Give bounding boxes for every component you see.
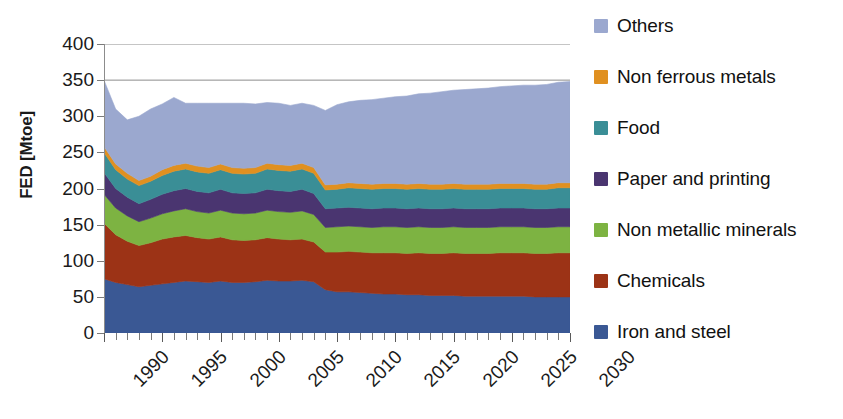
y-axis-tick-mark [97,80,104,81]
y-axis-tick-label: 400 [48,34,94,53]
x-axis-tick-label: 2010 [361,346,406,391]
legend-item[interactable]: Chemicals [594,269,705,293]
x-axis-tick-label: 2020 [478,346,523,391]
x-axis-tick-mark [465,333,466,340]
legend-swatch-icon [594,19,608,33]
legend-label: Others [617,15,673,37]
x-axis-tick-mark [477,333,478,340]
legend-label: Iron and steel [617,321,731,343]
legend-item[interactable]: Non metallic minerals [594,218,797,242]
y-axis-tick-label: 150 [48,215,94,234]
y-axis-tick-mark [97,44,104,45]
x-axis-tick-mark [116,333,117,340]
y-axis-title: FED [Mtoe] [17,90,37,220]
x-axis-tick-label: 2000 [245,346,290,391]
x-axis-tick-label: 2005 [303,346,348,391]
x-axis-tick-mark [255,333,256,340]
legend-item[interactable]: Food [594,116,660,140]
x-axis-tick-mark [349,333,350,340]
legend-swatch-icon [594,325,608,339]
stacked-area-plot [104,44,570,333]
legend-swatch-icon [594,70,608,84]
y-axis-tick-label: 50 [48,287,94,306]
x-axis-tick-mark [186,333,187,340]
legend-item[interactable]: Paper and printing [594,167,770,191]
x-axis-tick-label: 2015 [420,346,465,391]
legend-label: Non metallic minerals [617,219,797,241]
x-axis-tick-mark [372,333,373,340]
y-axis-tick-label: 350 [48,70,94,89]
x-axis-tick-mark [232,333,233,340]
x-axis-tick-label: 2025 [536,346,581,391]
y-axis-tick-label: 250 [48,142,94,161]
legend-item[interactable]: Iron and steel [594,320,731,344]
legend-swatch-icon [594,223,608,237]
legend-label: Food [617,117,660,139]
x-axis-tick-mark [430,333,431,340]
x-axis-tick-mark [523,333,524,340]
x-axis-tick-label: 1995 [187,346,232,391]
chart-legend: OthersNon ferrous metalsFoodPaper and pr… [594,0,843,370]
legend-label: Chemicals [617,270,705,292]
legend-item[interactable]: Others [594,14,673,38]
y-axis-tick-label: 100 [48,251,94,270]
y-axis-tick-mark [97,152,104,153]
x-axis-tick-mark [127,333,128,340]
chart-container: FED [Mtoe] 050100150200250300350400 1990… [0,0,843,419]
x-axis-tick-mark [419,333,420,340]
legend-label: Non ferrous metals [617,66,776,88]
x-axis-tick-mark [407,333,408,340]
x-axis-tick-mark [244,333,245,340]
y-axis-tick-mark [97,297,104,298]
x-axis-tick-mark [209,333,210,340]
x-axis-tick-mark [500,333,501,340]
x-axis-tick-labels: 199019952000200520102015202020252030 [0,340,620,419]
y-axis-tick-label: 200 [48,179,94,198]
legend-item[interactable]: Non ferrous metals [594,65,776,89]
x-axis-tick-mark [267,333,268,340]
x-axis-tick-mark [488,333,489,340]
y-axis-tick-mark [97,261,104,262]
y-axis-tick-mark [97,116,104,117]
x-axis-tick-mark [384,333,385,340]
x-axis-tick-mark [360,333,361,340]
x-axis-tick-mark [174,333,175,340]
x-axis-tick-label: 1990 [128,346,173,391]
y-axis-tick-mark [97,189,104,190]
x-axis-tick-mark [442,333,443,340]
legend-swatch-icon [594,121,608,135]
x-axis-tick-mark [535,333,536,340]
legend-label: Paper and printing [617,168,770,190]
x-axis-tick-mark [139,333,140,340]
x-axis-tick-mark [302,333,303,340]
x-axis-tick-mark [558,333,559,340]
plot-area [104,44,570,333]
x-axis-tick-mark [325,333,326,340]
x-axis-tick-mark [547,333,548,340]
y-axis-tick-mark [97,333,104,334]
x-axis-tick-mark [314,333,315,340]
y-axis-tick-mark [97,225,104,226]
legend-swatch-icon [594,274,608,288]
x-axis-tick-mark [151,333,152,340]
x-axis-tick-mark [290,333,291,340]
y-axis-tick-label: 300 [48,106,94,125]
x-axis-tick-mark [197,333,198,340]
legend-swatch-icon [594,172,608,186]
